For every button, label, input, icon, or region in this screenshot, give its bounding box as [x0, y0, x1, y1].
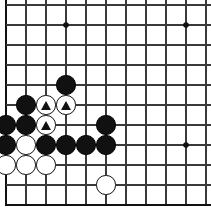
stone-layer: [0, 0, 211, 216]
stone-black[interactable]: [96, 135, 115, 154]
stone-black[interactable]: [0, 135, 16, 154]
stone-black[interactable]: [0, 115, 16, 134]
stone-black[interactable]: [56, 135, 75, 154]
go-board-diagram: [0, 0, 211, 216]
stone-black[interactable]: [96, 115, 115, 134]
stone-white[interactable]: [36, 155, 55, 174]
stone-white[interactable]: [16, 135, 35, 154]
triangle-mark-icon: [41, 121, 51, 130]
stone-white[interactable]: [16, 155, 35, 174]
triangle-mark-icon: [61, 101, 71, 110]
stone-black[interactable]: [36, 135, 55, 154]
stone-black[interactable]: [76, 135, 95, 154]
triangle-mark-icon: [41, 101, 51, 110]
stone-black[interactable]: [56, 75, 75, 94]
stone-white[interactable]: [96, 175, 115, 194]
stone-black[interactable]: [16, 115, 35, 134]
stone-black[interactable]: [16, 95, 35, 114]
stone-white[interactable]: [0, 155, 16, 174]
